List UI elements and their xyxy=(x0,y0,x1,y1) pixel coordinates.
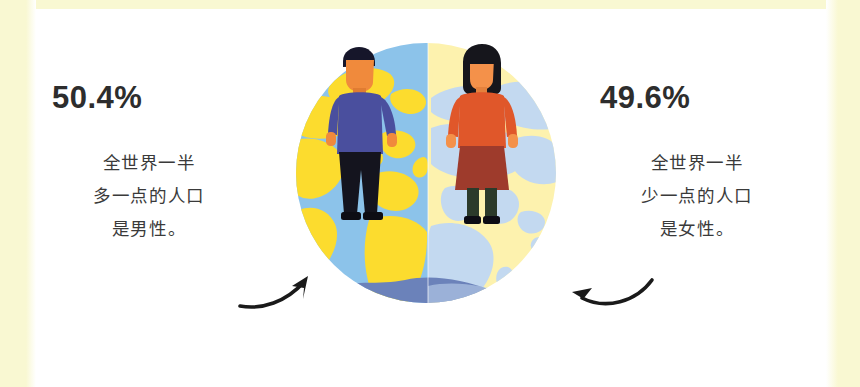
stat-block-male: 50.4% 全世界一半 多一点的人口 是男性。 xyxy=(44,82,254,246)
female-caption-line-3: 是女性。 xyxy=(592,213,802,246)
page-margin-top xyxy=(0,0,860,9)
female-caption-line-1: 全世界一半 xyxy=(592,147,802,180)
curved-arrow-right-icon xyxy=(238,258,348,320)
male-percentage: 50.4% xyxy=(44,82,254,113)
female-percentage: 49.6% xyxy=(592,82,802,113)
male-caption-line-1: 全世界一半 xyxy=(44,147,254,180)
curved-arrow-left-icon xyxy=(540,258,655,320)
male-caption-line-2: 多一点的人口 xyxy=(44,180,254,213)
page-margin-right-fade xyxy=(826,0,838,387)
infographic-page: 50.4% 全世界一半 多一点的人口 是男性。 49.6% 全世界一半 少一点的… xyxy=(0,0,860,387)
page-margin-left-fade xyxy=(26,0,36,387)
stat-block-female: 49.6% 全世界一半 少一点的人口 是女性。 xyxy=(592,82,802,246)
male-caption-line-3: 是男性。 xyxy=(44,213,254,246)
female-caption-line-2: 少一点的人口 xyxy=(592,180,802,213)
